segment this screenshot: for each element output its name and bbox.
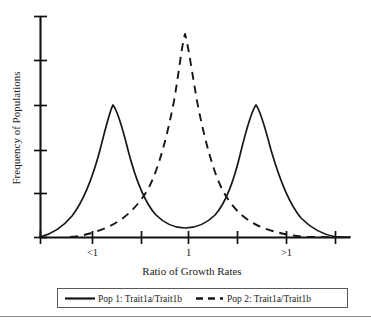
x-tick-label-less-than-one: <1	[87, 247, 98, 258]
series-line-pop1-solid	[40, 105, 350, 237]
x-tick-label-greater-than-one: >1	[281, 247, 292, 258]
growth-rate-ratio-distribution-chart: <1 1 >1 Ratio of Growth Rates Frequency …	[0, 0, 371, 320]
x-axis-title: Ratio of Growth Rates	[142, 265, 241, 277]
x-axis	[40, 231, 350, 244]
legend-label-pop2: Pop 2: Trait1a/Trait1b	[227, 294, 311, 304]
legend-label-pop1: Pop 1: Trait1a/Trait1b	[98, 294, 182, 304]
chart-legend: Pop 1: Trait1a/Trait1b Pop 2: Trait1a/Tr…	[58, 289, 348, 308]
series-line-pop2-dashed	[70, 34, 350, 237]
x-tick-label-one: 1	[186, 247, 191, 258]
chart-figure: <1 1 >1 Ratio of Growth Rates Frequency …	[0, 0, 371, 320]
y-axis	[34, 16, 47, 238]
y-axis-title: Frequency of Populations	[10, 71, 22, 184]
